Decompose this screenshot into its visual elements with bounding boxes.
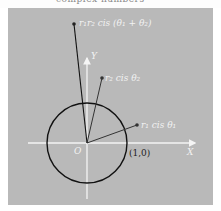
origin-label: O [74,147,81,156]
vector-product [74,24,87,143]
unit-point-label: (1,0) [129,149,150,158]
vector-z1 [87,125,137,143]
product-label: r₁r₂ cis (θ₁ + θ₂) [79,19,151,28]
vector-z2 [87,78,102,143]
point-z2 [100,76,104,80]
diagram-canvas [0,0,221,211]
point-z1 [135,123,139,127]
z1-label: r₁ cis θ₁ [141,121,176,130]
z2-label: r₂ cis θ₂ [105,74,140,83]
y-axis-label: Y [91,52,97,61]
point-product [72,22,76,26]
x-axis-label: X [187,148,193,157]
